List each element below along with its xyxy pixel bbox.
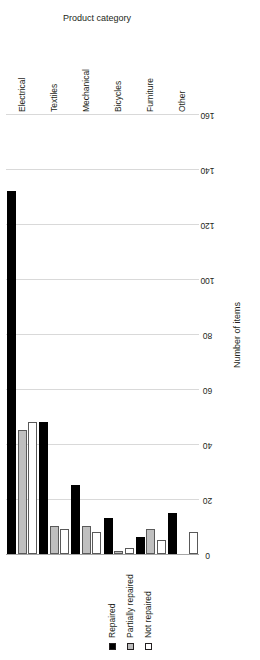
bar (82, 527, 91, 555)
value-axis-tick-label: 0 (195, 551, 221, 560)
bar (60, 529, 69, 554)
black-square-icon (109, 643, 116, 650)
bar-group (103, 115, 135, 555)
value-axis-tick-label: 60 (195, 386, 221, 395)
value-axis-label: Number of items (232, 115, 242, 555)
legend-item-not-repaired: Not repaired (144, 574, 153, 650)
bar (7, 191, 16, 554)
category-tick-label: Mechanical (82, 69, 91, 112)
category-tick-label: Bicycles (114, 81, 123, 112)
category-tick-label: Electrical (18, 78, 27, 112)
legend-item-repaired: Repaired (108, 574, 117, 650)
value-axis-tick-label: 120 (195, 221, 221, 230)
bar-group (70, 115, 102, 555)
legend-label: Partially repaired (126, 574, 135, 638)
bar (157, 540, 166, 554)
legend-label: Repaired (108, 604, 117, 639)
bar (125, 549, 134, 555)
bar-chart: Repaired Partially repaired Not repaired… (0, 0, 260, 660)
bar-group (135, 115, 167, 555)
value-axis-tick-label: 140 (195, 166, 221, 175)
legend-item-partially-repaired: Partially repaired (126, 574, 135, 650)
bar-group (38, 115, 70, 555)
bar (168, 513, 177, 554)
category-tick-label: Textiles (50, 84, 59, 112)
bar (28, 422, 37, 554)
chart-legend: Repaired Partially repaired Not repaired (108, 574, 153, 650)
gray-square-icon (127, 643, 134, 650)
bar (39, 422, 48, 554)
category-tick-label: Other (178, 91, 187, 112)
bar (104, 518, 113, 554)
category-axis-label: Product category (63, 13, 131, 23)
value-axis-tick-label: 20 (195, 496, 221, 505)
value-axis-tick-label: 100 (195, 276, 221, 285)
bar (71, 485, 80, 554)
category-axis-ticks: ElectricalTextilesMechanicalBicyclesFurn… (6, 50, 199, 112)
bar (114, 551, 123, 554)
category-tick-label: Furniture (146, 78, 155, 112)
white-square-icon (145, 643, 152, 650)
bar-group (6, 115, 38, 555)
bar-groups (6, 115, 199, 555)
bar (92, 532, 101, 554)
bar (18, 430, 27, 554)
value-axis-tick-label: 80 (195, 331, 221, 340)
legend-label: Not repaired (144, 591, 153, 638)
bar (136, 538, 145, 555)
plot-area (6, 115, 199, 555)
rotated-chart-wrapper: Repaired Partially repaired Not repaired… (0, 0, 260, 660)
value-axis-tick-label: 40 (195, 441, 221, 450)
bar (146, 529, 155, 554)
bar (50, 527, 59, 555)
